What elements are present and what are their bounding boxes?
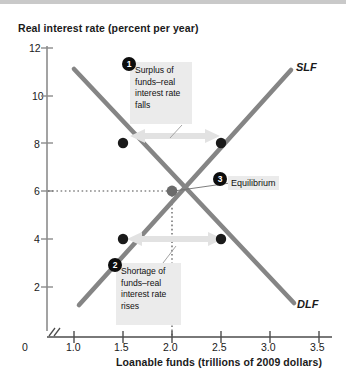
equilibrium-point — [167, 186, 178, 197]
shortage-demand-point — [216, 234, 226, 244]
surplus-line-2: funds–real — [135, 77, 188, 89]
callout-2-leader — [163, 246, 176, 263]
shortage-supply-point — [118, 234, 128, 244]
equilibrium-label: Equilibrium — [228, 176, 279, 190]
slf-curve-label: SLF — [296, 61, 317, 73]
surplus-line-3: interest rate — [135, 88, 188, 100]
surplus-supply-point — [216, 138, 226, 148]
shortage-arrow — [127, 232, 223, 246]
shortage-line-3: interest rate — [121, 289, 177, 301]
surplus-callout-box: Surplus of funds–real interest rate fall… — [130, 62, 192, 124]
figure-loanable-funds-market: Real interest rate (percent per year) Lo… — [0, 0, 346, 381]
shortage-callout-box: Shortage of funds–real interest rate ris… — [116, 263, 181, 325]
surplus-demand-point — [118, 138, 128, 148]
shortage-line-2: funds–real — [121, 278, 177, 290]
surplus-arrow — [130, 129, 220, 143]
callout-marker-2: 2 — [108, 258, 122, 272]
surplus-line-1: Surplus of — [135, 65, 188, 77]
shortage-line-1: Shortage of — [121, 266, 177, 278]
callout-marker-3: 3 — [213, 172, 227, 186]
callout-marker-1: 1 — [122, 57, 136, 71]
shortage-line-4: rises — [121, 301, 177, 313]
surplus-line-4: falls — [135, 100, 188, 112]
dlf-curve-label: DLF — [297, 298, 318, 310]
